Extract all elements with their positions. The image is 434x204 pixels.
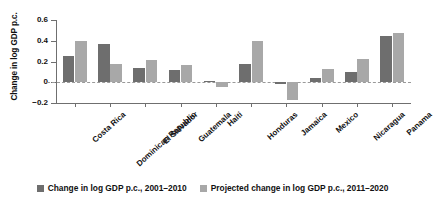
chart-legend: Change in log GDP p.c., 2001–2010 Projec…	[0, 183, 425, 193]
plot-area	[57, 20, 410, 103]
x-axis-tick	[286, 103, 287, 107]
bar	[181, 65, 193, 83]
bar	[380, 36, 392, 82]
legend-label: Projected change in log GDP p.c., 2011–2…	[211, 183, 389, 193]
x-axis-tick	[322, 103, 323, 107]
x-axis-tick	[75, 103, 76, 107]
x-axis-tick	[181, 103, 182, 107]
x-axis-tick	[251, 103, 252, 107]
bar	[345, 72, 357, 82]
y-axis-tick-label: 0.2	[8, 58, 48, 66]
x-axis-label: El Salvador	[161, 110, 199, 146]
bar	[239, 64, 251, 83]
bar	[357, 59, 369, 82]
legend-swatch-icon	[200, 185, 207, 192]
legend-item-series-0: Change in log GDP p.c., 2001–2010	[37, 183, 187, 193]
bar	[275, 82, 287, 84]
y-axis-tick-label: 0.6	[8, 16, 48, 24]
y-axis-tick-label: 0.4	[8, 37, 48, 45]
x-axis-label: Honduras	[266, 110, 300, 142]
bar	[75, 41, 87, 83]
y-axis-tick-label: 0	[8, 78, 48, 86]
bar	[133, 68, 145, 83]
x-axis-label: Nicaragua	[372, 110, 407, 143]
legend-item-series-1: Projected change in log GDP p.c., 2011–2…	[200, 183, 389, 193]
legend-swatch-icon	[37, 185, 44, 192]
bar	[216, 82, 228, 87]
x-axis-label: Costa Rica	[90, 110, 127, 144]
bar	[146, 60, 158, 82]
x-axis-tick	[216, 103, 217, 107]
bar	[252, 41, 264, 83]
bar	[63, 56, 75, 82]
bar	[204, 81, 216, 82]
bar	[322, 69, 334, 82]
x-axis-tick	[145, 103, 146, 107]
bar	[98, 44, 110, 82]
bar	[310, 78, 322, 82]
x-axis-tick	[110, 103, 111, 107]
x-axis-tick	[392, 103, 393, 107]
y-axis-tick	[51, 103, 57, 104]
bar	[287, 82, 299, 100]
legend-label: Change in log GDP p.c., 2001–2010	[48, 183, 187, 193]
y-axis-tick-label: −0.2	[8, 99, 48, 107]
bar	[110, 64, 122, 83]
bar	[393, 33, 405, 82]
x-axis-label: Panama	[405, 110, 434, 137]
x-axis-tick	[357, 103, 358, 107]
bar	[169, 70, 181, 82]
x-axis-label: Jamaica	[300, 110, 330, 138]
x-axis-label: Mexico	[334, 110, 360, 135]
x-axis-label: Guatemala	[196, 110, 232, 144]
